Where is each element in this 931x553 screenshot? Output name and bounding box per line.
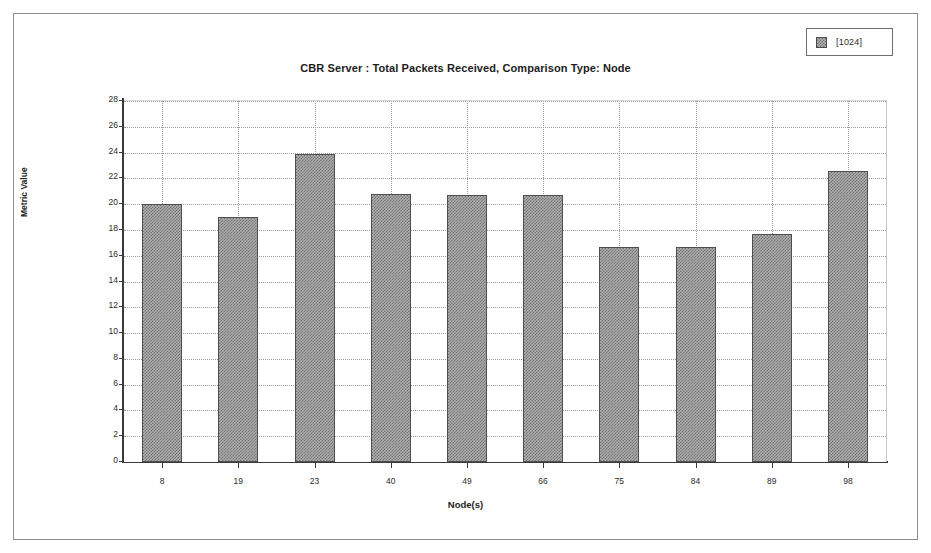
y-tick-mark	[119, 384, 124, 385]
x-tick-label: 40	[371, 476, 411, 486]
x-tick-mark	[315, 462, 316, 468]
x-tick-label: 8	[142, 476, 182, 486]
y-tick-mark	[119, 203, 124, 204]
plot-area	[124, 100, 887, 462]
x-axis-title: Node(s)	[0, 499, 931, 510]
y-tick-label: 8	[88, 353, 118, 362]
bar[interactable]	[599, 247, 639, 462]
y-axis-title: Metric Value	[19, 167, 29, 217]
bar[interactable]	[523, 195, 563, 462]
legend-swatch-icon	[816, 37, 827, 48]
y-tick-label: 14	[88, 276, 118, 285]
chart-application-frame: [1024] CBR Server : Total Packets Receiv…	[0, 0, 931, 553]
y-tick-mark	[119, 332, 124, 333]
x-tick-mark	[238, 462, 239, 468]
y-tick-mark	[119, 100, 124, 101]
x-tick-mark	[467, 462, 468, 468]
x-tick-mark	[696, 462, 697, 468]
x-tick-label: 23	[295, 476, 335, 486]
y-tick-mark	[119, 358, 124, 359]
bar[interactable]	[752, 234, 792, 462]
y-tick-label: 26	[88, 121, 118, 130]
y-tick-label: 28	[88, 95, 118, 104]
bar[interactable]	[828, 171, 868, 462]
x-tick-mark	[848, 462, 849, 468]
legend-entry-label: [1024]	[836, 37, 862, 47]
y-tick-mark	[119, 152, 124, 153]
x-tick-label: 89	[752, 476, 792, 486]
y-tick-mark	[119, 409, 124, 410]
bar[interactable]	[676, 247, 716, 462]
bar[interactable]	[371, 194, 411, 462]
y-tick-label: 10	[88, 327, 118, 336]
y-tick-mark	[119, 255, 124, 256]
x-tick-label: 84	[676, 476, 716, 486]
x-tick-mark	[619, 462, 620, 468]
y-tick-mark	[119, 435, 124, 436]
y-tick-label: 12	[88, 301, 118, 310]
y-tick-mark	[119, 126, 124, 127]
y-tick-mark	[119, 306, 124, 307]
bar[interactable]	[142, 204, 182, 462]
x-tick-mark	[543, 462, 544, 468]
y-tick-label: 20	[88, 198, 118, 207]
y-tick-label: 24	[88, 147, 118, 156]
x-tick-mark	[772, 462, 773, 468]
x-tick-label: 75	[599, 476, 639, 486]
y-tick-label: 4	[88, 404, 118, 413]
x-tick-label: 66	[523, 476, 563, 486]
y-tick-mark	[119, 281, 124, 282]
chart-legend[interactable]: [1024]	[806, 28, 893, 56]
x-tick-label: 49	[447, 476, 487, 486]
x-tick-label: 19	[218, 476, 258, 486]
y-tick-label: 6	[88, 379, 118, 388]
chart-title: CBR Server : Total Packets Received, Com…	[0, 62, 931, 74]
y-tick-mark	[119, 461, 124, 462]
y-tick-label: 16	[88, 250, 118, 259]
bar[interactable]	[295, 154, 335, 462]
x-tick-mark	[391, 462, 392, 468]
y-tick-label: 2	[88, 430, 118, 439]
bar[interactable]	[218, 217, 258, 462]
y-tick-label: 22	[88, 172, 118, 181]
y-tick-label: 0	[88, 456, 118, 465]
y-tick-mark	[119, 177, 124, 178]
y-tick-label: 18	[88, 224, 118, 233]
x-tick-mark	[162, 462, 163, 468]
bar[interactable]	[447, 195, 487, 462]
y-tick-mark	[119, 229, 124, 230]
x-tick-label: 98	[828, 476, 868, 486]
